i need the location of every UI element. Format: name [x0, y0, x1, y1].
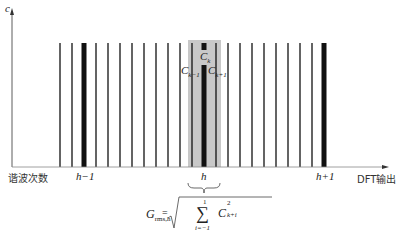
dft-bin-line: [179, 43, 180, 167]
dft-bin-line: [251, 43, 252, 167]
dft-bin-line: [311, 43, 312, 167]
dft-bin-line: [119, 43, 120, 167]
harmonic-bin-thick: [82, 43, 87, 167]
formula-equals: =: [162, 207, 168, 218]
dft-bin-line: [299, 43, 300, 167]
tick-label-h-minus-1: h−1: [76, 170, 94, 182]
dft-bin-line: [107, 43, 108, 167]
ck-minus-1-label: Ck−1: [181, 64, 200, 79]
tick-label-h-plus-1: h+1: [316, 170, 334, 182]
x-axis-label-left: 谐波次数: [8, 170, 48, 185]
dft-bin-line: [167, 43, 168, 167]
dft-bin-line: [227, 43, 228, 167]
dft-bin-line: [143, 43, 144, 167]
dft-bin-line: [95, 43, 96, 167]
harmonic-grouping-diagram: c 谐波次数 DFT输出 h−1 h h+1 Ck Ck−1 Ck+1 Grms…: [0, 0, 402, 237]
tick-label-h: h: [201, 170, 207, 182]
dft-bin-line: [263, 43, 264, 167]
y-axis-arrow-icon: [10, 8, 14, 15]
dft-bin-line: [215, 43, 216, 167]
x-axis-label-right: DFT输出: [357, 171, 396, 186]
dft-bin-line: [287, 43, 288, 167]
ck-plus-1-label: Ck+1: [208, 64, 227, 79]
dft-bin-line: [275, 43, 276, 167]
sum-symbol: ∑: [196, 203, 209, 224]
ck-label: Ck: [200, 50, 210, 65]
diagram-canvas: [0, 0, 402, 237]
dft-bin-line: [131, 43, 132, 167]
dft-bin-line: [239, 43, 240, 167]
y-axis-label: c: [5, 2, 10, 14]
dft-bin-line: [155, 43, 156, 167]
dft-bin-line: [71, 43, 72, 167]
dft-bin-line: [191, 43, 192, 167]
group-brace: [188, 183, 220, 193]
harmonic-bin-thick: [322, 43, 327, 167]
formula-term: C2k+i: [218, 206, 226, 221]
dft-bin-line: [59, 43, 60, 167]
sum-lower-limit: i=−1: [195, 224, 210, 232]
x-axis-arrow-icon: [382, 165, 389, 169]
